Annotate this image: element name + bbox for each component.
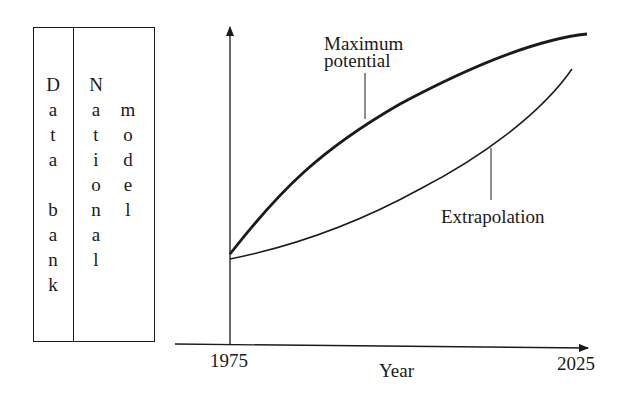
potential-label: potential [324, 52, 390, 69]
chart-svg [0, 0, 623, 396]
extrapolation-label: Extrapolation [441, 208, 544, 225]
x-start-tick-label: 1975 [210, 352, 248, 369]
extrapolation-curve [230, 69, 572, 259]
x-axis [175, 344, 588, 348]
x-end-tick-label: 2025 [557, 355, 595, 372]
diagram: Databank National model Maximum potentia… [0, 0, 623, 396]
x-axis-title: Year [379, 362, 414, 379]
